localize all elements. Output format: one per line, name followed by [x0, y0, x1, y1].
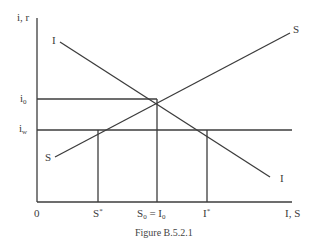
x-axis-label: I, S: [285, 208, 300, 219]
figure-caption: Figure B.5.2.1: [135, 227, 193, 238]
iw-tick-label: iw: [19, 123, 27, 136]
saving-curve: [55, 33, 290, 157]
s-star-tick-label: S*: [93, 208, 103, 219]
y-axis-label: i, r: [17, 12, 29, 23]
i-star-tick-label: I*: [203, 208, 210, 219]
investment-curve: [60, 42, 270, 177]
saving-curve-end-label: S: [293, 24, 299, 35]
i0-tick-label: i0: [20, 93, 27, 106]
investment-curve-start-label: I: [52, 35, 56, 46]
savings-investment-diagram: [0, 0, 330, 243]
origin-label: 0: [34, 208, 40, 219]
investment-curve-end-label: I: [280, 173, 284, 184]
saving-curve-start-label: S: [45, 152, 51, 163]
s0-equals-i0-tick-label: S0 = I0: [137, 208, 166, 221]
